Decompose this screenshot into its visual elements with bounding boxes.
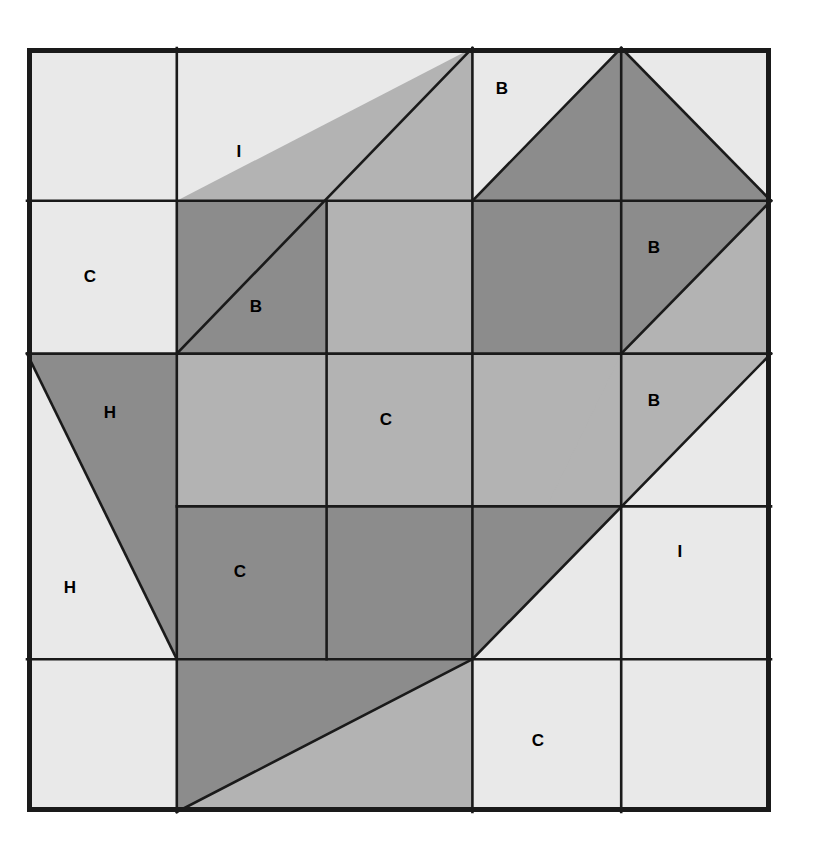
patch-r4c3-dark — [327, 506, 473, 659]
label-i-bottom: I — [678, 542, 683, 562]
label-c-bottom: C — [532, 731, 544, 751]
quilt-block-svg — [0, 0, 818, 844]
quilt-diagram-canvas: IBCBBHCBHCIC — [0, 0, 818, 844]
patch-r2c4-dark — [472, 201, 621, 354]
patch-r5c5-light — [621, 659, 771, 812]
label-b-top: B — [496, 79, 508, 99]
label-h-lower: H — [64, 578, 76, 598]
patch-r5c1-light — [27, 659, 177, 812]
patch-r2c1-light — [27, 201, 177, 354]
label-b-right: B — [648, 238, 660, 258]
patch-r2c3-med — [327, 201, 473, 354]
label-c-center: C — [380, 410, 392, 430]
label-c-left: C — [84, 267, 96, 287]
patch-r4c2-dark — [177, 506, 327, 659]
label-i-top: I — [237, 142, 242, 162]
patch-r1c1-light — [27, 48, 177, 201]
label-b-upper: B — [250, 297, 262, 317]
patch-r3c3-med — [327, 354, 473, 507]
label-b-lower: B — [648, 391, 660, 411]
patch-r5c4-light — [472, 659, 621, 812]
label-h-upper: H — [104, 403, 116, 423]
patch-r3c2-med — [177, 354, 327, 507]
label-c-mid: C — [234, 562, 246, 582]
